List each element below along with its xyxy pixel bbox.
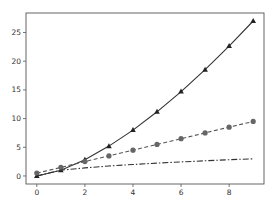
y-tick-label: 15	[11, 85, 21, 94]
series-0	[34, 18, 256, 178]
y-tick-label: 20	[11, 57, 21, 66]
triangle-marker	[250, 18, 256, 23]
x-tick-label: 8	[227, 188, 232, 197]
circle-marker	[251, 119, 256, 124]
series-line	[37, 122, 253, 174]
axes-frame	[26, 13, 264, 184]
y-tick-label: 25	[11, 28, 21, 37]
triangle-marker	[106, 143, 112, 148]
y-tick-label: 0	[16, 172, 21, 181]
circle-marker	[178, 136, 183, 141]
x-tick-label: 2	[83, 188, 88, 197]
circle-marker	[203, 130, 208, 135]
y-tick-label: 10	[11, 114, 21, 123]
circle-marker	[227, 125, 232, 130]
plot-area	[34, 18, 256, 178]
x-tick-label: 6	[179, 188, 184, 197]
series-line	[37, 159, 253, 176]
circle-marker	[82, 159, 87, 164]
x-axis: 02468	[34, 184, 231, 197]
y-tick-label: 5	[16, 143, 21, 152]
series-line	[37, 21, 253, 176]
circle-marker	[34, 170, 39, 175]
circle-marker	[58, 165, 63, 170]
x-tick-label: 0	[34, 188, 39, 197]
y-axis: 0510152025	[11, 28, 26, 180]
circle-marker	[106, 153, 111, 158]
line-chart: 02468 0510152025	[0, 0, 277, 210]
circle-marker	[130, 148, 135, 153]
circle-marker	[154, 142, 159, 147]
x-tick-label: 4	[131, 188, 136, 197]
triangle-marker	[130, 127, 136, 132]
series-2	[37, 159, 253, 176]
